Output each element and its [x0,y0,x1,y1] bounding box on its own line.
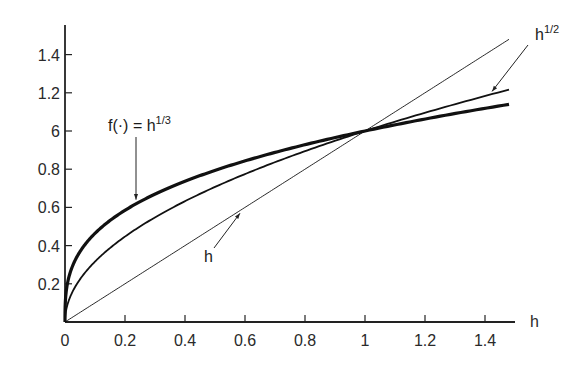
chart: 00.20.40.60.811.21.40.20.40.60.861.21.4 … [0,0,583,370]
annotation-linear: h [204,248,213,265]
y-tick-label: 0.4 [38,238,60,255]
annotation-cube-root: f(·) = h1/3 [108,114,171,134]
x-tick-label: 0.4 [174,332,196,349]
x-axis-label: h [530,313,539,330]
annotation-sqrt: h1/2 [535,23,559,43]
y-tick-label: 1.2 [38,85,60,102]
y-tick-label: 1.4 [38,47,60,64]
annotation-text: h [535,26,544,43]
x-tick-label: 0.8 [294,332,316,349]
x-tick-label: 1.4 [474,332,496,349]
annotations: f(·) = h1/3h1/2h [108,23,559,265]
annotation-sup: 1/2 [544,23,559,35]
y-tick-label: 6 [51,123,60,140]
axes [65,25,515,322]
x-tick-label: 0.6 [234,332,256,349]
annotation-text: h [204,248,213,265]
series-line-0 [65,104,509,322]
y-tick-label: 0.6 [38,199,60,216]
annotation-text: f(·) = h [108,117,156,134]
series-line-2 [65,39,509,322]
annotation-arrow-cube-root-head [134,194,138,200]
x-tick-label: 0.2 [114,332,136,349]
ticks: 00.20.40.60.811.21.40.20.40.60.861.21.4 [38,47,496,349]
curves [65,39,509,322]
y-tick-label: 0.8 [38,161,60,178]
x-tick-label: 0 [61,332,70,349]
annotation-sup: 1/3 [156,114,171,126]
x-tick-label: 1.2 [414,332,436,349]
annotation-arrow-sqrt [492,45,528,91]
y-tick-label: 0.2 [38,276,60,293]
x-tick-label: 1 [361,332,370,349]
